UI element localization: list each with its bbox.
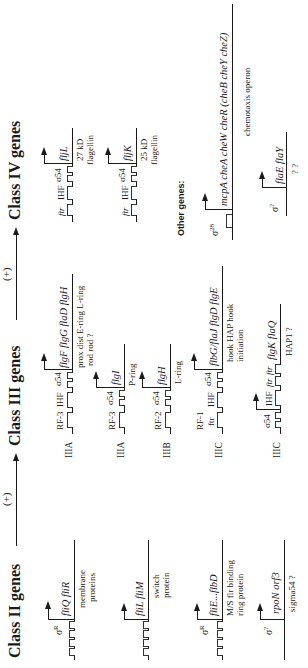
- site-label: σ54: [117, 168, 127, 182]
- site-box: [275, 412, 281, 419]
- transcription-arrow-icon: [139, 371, 145, 379]
- transcription-start: [44, 163, 72, 164]
- transcription-start: [124, 619, 148, 620]
- transcription-start: [96, 387, 124, 388]
- site-label: IHF: [56, 185, 66, 200]
- subclass-label: IIIC: [214, 442, 224, 458]
- gene-product: flagellin: [149, 135, 159, 165]
- gene-names: fljL: [58, 146, 69, 161]
- gene-product: 25 kD: [139, 139, 149, 161]
- site-box: [217, 412, 223, 428]
- site-box: [67, 166, 73, 173]
- site-box: [217, 372, 223, 379]
- sigma-label: σR: [198, 625, 210, 635]
- site-label: ftr: [264, 378, 274, 387]
- site-box: [275, 364, 281, 374]
- class2-title: Class II genes: [6, 564, 24, 658]
- transcription-arrow-shaft: [96, 378, 97, 388]
- positive-regulation-label-1: (+): [0, 492, 12, 506]
- transcription-arrow-shaft: [197, 610, 198, 620]
- site-box: [67, 372, 73, 379]
- gene-names: mcpA cheA cheW cheR (cheB cheY cheZ): [218, 33, 229, 206]
- transcription-arrow-icon: [202, 193, 208, 201]
- site-box: [165, 390, 171, 397]
- gene-product: switch: [151, 575, 161, 599]
- transcription-arrow-shaft: [260, 610, 261, 620]
- subclass-label: IIIB: [162, 442, 172, 458]
- gene-names: flgH: [156, 366, 167, 385]
- class4-title: Class IV genes: [6, 121, 24, 220]
- promoter-box: [143, 648, 149, 656]
- transcription-start: [194, 369, 222, 370]
- gene-product: membrane: [77, 570, 87, 608]
- transcription-arrow-shaft: [48, 608, 49, 620]
- gene-names: rpoN orf3: [270, 572, 281, 614]
- sigma-label: σR: [52, 625, 64, 635]
- subclass-label: IIIC: [272, 442, 282, 458]
- gene-names: fliQ fliR: [60, 582, 71, 616]
- site-label: ftr: [56, 207, 66, 216]
- transcription-arrow-icon: [194, 603, 200, 611]
- promoter-box: [217, 621, 223, 629]
- positive-regulation-label-2: (+): [0, 267, 12, 281]
- promoter-box: [69, 630, 75, 638]
- site-label: σ54: [262, 414, 272, 428]
- transcription-arrow-shaft: [44, 360, 45, 370]
- sigma-label: σ28: [208, 224, 220, 236]
- site-box: [275, 421, 281, 428]
- arrowhead-right-icon: [13, 227, 19, 235]
- promoter-box: [226, 214, 232, 228]
- site-label: RF-2: [153, 411, 163, 430]
- site-label: RF-3: [55, 411, 65, 430]
- site-label: ftr: [120, 207, 130, 216]
- gene-product: M/S flr binding: [225, 560, 235, 616]
- gene-names: flaE flaY: [274, 147, 285, 184]
- site-box: [131, 166, 137, 173]
- site-box: [131, 204, 137, 216]
- site-box: [119, 412, 125, 428]
- other-genes-heading: Other genes:: [176, 180, 186, 236]
- transcription-start: [48, 619, 74, 620]
- site-label: IHF: [264, 391, 274, 406]
- site-label: ftr: [264, 366, 274, 375]
- sigma-label: σ?: [262, 627, 274, 635]
- site-label: σ54: [53, 372, 63, 386]
- site-box: [67, 412, 73, 428]
- site-box: [67, 186, 73, 200]
- site-label: ftr: [206, 418, 216, 427]
- transcription-start: [256, 409, 280, 410]
- promoter-box: [69, 639, 75, 647]
- class3-title: Class III genes: [6, 346, 24, 446]
- dna-line: [232, 4, 233, 240]
- gene-names: flbG/flaJ flgD flgE: [208, 287, 219, 366]
- sigma-label: σ?: [268, 204, 280, 212]
- subclass-label: IIIA: [116, 442, 126, 458]
- regulation-arrow-2: [16, 234, 17, 320]
- site-box: [119, 399, 125, 406]
- transcription-arrow-icon: [257, 603, 263, 611]
- arrowhead-right-icon: [13, 453, 19, 461]
- gene-product: chemotaxis operon: [242, 68, 252, 136]
- regulation-arrow-1: [16, 460, 17, 546]
- site-box: [67, 392, 73, 408]
- transcription-arrow-icon: [41, 147, 47, 155]
- gene-names: flgI: [110, 370, 121, 385]
- transcription-arrow-icon: [105, 147, 111, 155]
- gene-product: hook HAP hook: [225, 304, 235, 362]
- site-box: [67, 381, 73, 388]
- transcription-arrow-shaft: [142, 378, 143, 388]
- gene-names: flgK flaQ: [266, 321, 277, 360]
- site-box: [217, 381, 223, 388]
- promoter-box: [69, 621, 75, 629]
- gene-names: fljK: [122, 145, 133, 161]
- gene-product: ? ?: [290, 164, 300, 174]
- promoter-box: [217, 648, 223, 656]
- transcription-start: [260, 619, 284, 620]
- dna-line: [286, 132, 287, 216]
- dna-line: [284, 540, 285, 660]
- site-box: [217, 392, 223, 408]
- dna-line: [222, 266, 223, 434]
- transcription-arrow-shaft: [262, 178, 263, 188]
- site-box: [165, 399, 171, 406]
- transcription-start: [142, 387, 170, 388]
